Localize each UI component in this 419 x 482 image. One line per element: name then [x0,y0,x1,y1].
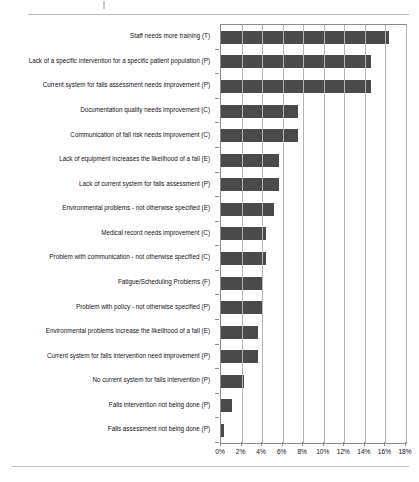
category-label: Current system for falls intervention ne… [0,344,214,369]
bar [221,399,232,412]
chart-page: Staff needs more training (T)Lack of a s… [0,0,419,482]
gridline [303,25,304,443]
category-axis-tick [215,417,219,418]
category-label-text: Problem with communication - not otherwi… [49,253,210,261]
category-axis-tick [215,147,219,148]
category-axis-tick [215,122,219,123]
category-axis-tick [215,73,219,74]
category-label: Falls assessment not being done (P) [0,417,214,442]
bar-row [221,50,406,75]
bar-row [221,123,406,148]
category-label-text: Documentation quality needs improvement … [80,106,210,114]
category-label-text: Fatigue/Scheduling Problems (F) [118,278,210,286]
value-axis-tick [261,442,262,446]
value-axis-tick [343,442,344,446]
category-label-text: Communication of fall risk needs improve… [70,131,210,139]
value-axis-tick-label: 14% [357,448,370,455]
bar [221,105,298,118]
gridline [406,25,407,443]
value-axis-tick-label: 12% [337,448,350,455]
category-label: Documentation quality needs improvement … [0,98,214,123]
category-label-text: Environmental problems - not otherwise s… [62,204,210,212]
bar [221,178,279,191]
value-axis-tick [302,442,303,446]
bar-row [221,25,406,50]
gridline [344,25,345,443]
value-axis-tick-label: 8% [297,448,307,455]
bar [221,375,244,388]
gridline [385,25,386,443]
bar [221,203,274,216]
category-axis-tick [215,270,219,271]
bar [221,129,298,142]
plot-area [220,24,407,444]
bar-row [221,197,406,222]
bar [221,55,371,68]
category-axis-labels: Staff needs more training (T)Lack of a s… [0,24,214,442]
value-axis-tick [282,442,283,446]
bar-row [221,369,406,394]
category-label: Lack of current system for falls assessm… [0,171,214,196]
category-label-text: Lack of a specific intervention for a sp… [29,57,210,65]
category-label: Current system for falls assessment need… [0,73,214,98]
gridline [242,25,243,443]
category-axis-tick [215,442,219,443]
bar-row [221,222,406,247]
gridline [283,25,284,443]
category-label: Communication of fall risk needs improve… [0,122,214,147]
bar-row [221,99,406,124]
category-label: Fatigue/Scheduling Problems (F) [0,270,214,295]
category-axis-tick [215,49,219,50]
gridline [324,25,325,443]
bar-row [221,271,406,296]
category-label-text: Problem with policy - not otherwise spec… [76,303,210,311]
category-label-text: Current system for falls assessment need… [43,81,210,89]
page-top-artifact [103,1,105,9]
bar-row [221,172,406,197]
value-axis-tick-label: 0% [215,448,225,455]
category-label-text: Medical record needs improvement (C) [101,229,210,237]
horizontal-bar-chart: Staff needs more training (T)Lack of a s… [0,22,419,462]
category-axis-tick [215,319,219,320]
category-axis-tick [215,344,219,345]
value-axis-tick [241,442,242,446]
value-axis-tick-label: 4% [256,448,266,455]
category-label: Medical record needs improvement (C) [0,221,214,246]
category-label: Lack of equipment increases the likeliho… [0,147,214,172]
bar-row [221,246,406,271]
category-axis-tick [215,221,219,222]
category-label: Environmental problems - not otherwise s… [0,196,214,221]
bar-row [221,345,406,370]
bar-row [221,148,406,173]
value-axis-tick [220,442,221,446]
bar-rows [221,25,406,443]
category-label: Environmental problems increase the like… [0,319,214,344]
value-axis-tick-label: 2% [236,448,246,455]
value-axis-tick [364,442,365,446]
category-label: Problem with policy - not otherwise spec… [0,294,214,319]
bar [221,350,258,363]
value-axis-tick [323,442,324,446]
value-axis-tick [405,442,406,446]
value-axis-tick-label: 6% [277,448,287,455]
category-axis-tick [215,98,219,99]
category-label-text: Falls assessment not being done (P) [108,425,210,433]
category-label-text: Staff needs more training (T) [130,32,210,40]
bar [221,252,266,265]
category-label-text: Lack of equipment increases the likeliho… [59,155,210,163]
value-axis-tick [384,442,385,446]
category-label: Lack of a specific intervention for a sp… [0,49,214,74]
value-axis-tick-label: 10% [316,448,329,455]
category-label: No current system for falls intervention… [0,368,214,393]
page-bottom-rule [12,466,409,467]
bar [221,154,279,167]
category-label: Problem with communication - not otherwi… [0,245,214,270]
bar [221,326,258,339]
category-axis-tick [215,368,219,369]
bar [221,80,371,93]
category-label-text: Lack of current system for falls assessm… [79,180,210,188]
category-label-text: No current system for falls intervention… [92,376,210,384]
bar-row [221,320,406,345]
category-label-text: Current system for falls intervention ne… [47,352,210,360]
category-axis-tick [215,393,219,394]
